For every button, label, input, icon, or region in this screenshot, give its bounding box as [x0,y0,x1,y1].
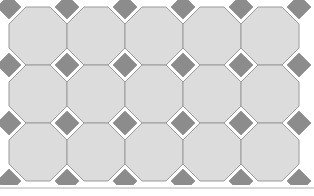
octagon-tile [9,65,67,123]
octagon-tile [241,7,299,65]
octagon-tile [183,123,241,181]
octagon-tile [183,65,241,123]
octagon-tile [125,123,183,181]
octagon-tile-layer [9,7,299,181]
octagon-tile [9,7,67,65]
octagon-tile [67,7,125,65]
octagon-tile [67,123,125,181]
tiling-figure [0,0,314,196]
octagon-tile [241,123,299,181]
octagon-tile [125,7,183,65]
octagon-tile [125,65,183,123]
octagon-tile [67,65,125,123]
octagon-tile [183,7,241,65]
octagon-tile [9,123,67,181]
tiling-canvas [0,0,314,196]
octagon-tile [241,65,299,123]
